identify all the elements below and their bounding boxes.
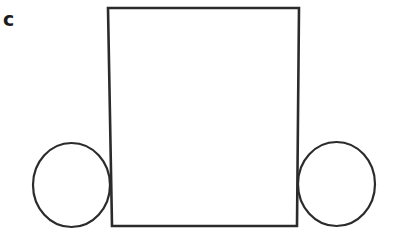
left-circle-shape <box>33 143 110 227</box>
rectangle-shape <box>108 8 299 226</box>
line-drawing <box>0 0 398 247</box>
figure-canvas: c <box>0 0 398 247</box>
panel-label: c <box>3 8 14 30</box>
right-circle-shape <box>298 142 375 226</box>
